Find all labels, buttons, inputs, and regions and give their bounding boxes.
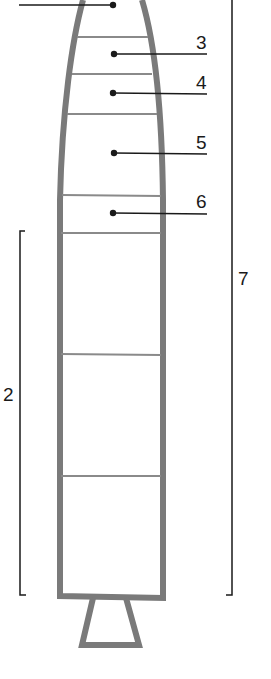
leader-line-4 bbox=[113, 93, 207, 94]
rocket-nozzle bbox=[82, 598, 139, 645]
bracket-7 bbox=[226, 0, 232, 595]
divider-4 bbox=[62, 195, 161, 196]
leader-line-6 bbox=[113, 213, 207, 214]
bracket-label-7: 7 bbox=[238, 269, 249, 288]
rocket-outline bbox=[60, 0, 163, 598]
callout-label-4: 4 bbox=[196, 73, 207, 92]
bracket-2 bbox=[20, 231, 26, 595]
callout-dot-1 bbox=[110, 2, 116, 8]
callout-dot-3 bbox=[111, 51, 117, 57]
bracket-label-2: 2 bbox=[3, 385, 14, 404]
callout-dot-5 bbox=[111, 150, 117, 156]
callout-label-3: 3 bbox=[196, 33, 207, 52]
callout-label-6: 6 bbox=[196, 192, 207, 211]
callout-dot-4 bbox=[110, 90, 116, 96]
rocket-diagram bbox=[0, 0, 271, 679]
divider-6 bbox=[61, 354, 161, 355]
callout-label-5: 5 bbox=[196, 133, 207, 152]
leader-line-5 bbox=[114, 153, 207, 154]
callout-dot-6 bbox=[110, 210, 116, 216]
